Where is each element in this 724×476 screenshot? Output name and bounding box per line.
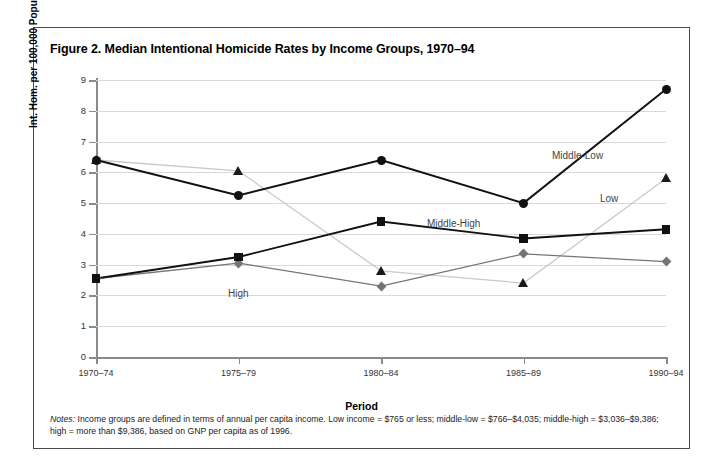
gridline — [96, 142, 666, 143]
data-point-marker — [376, 266, 386, 275]
y-tick — [89, 265, 96, 267]
y-tick-label: 9 — [64, 74, 86, 85]
y-tick-label: 5 — [64, 197, 86, 208]
y-tick — [89, 326, 96, 328]
series-line-middle-low — [96, 89, 666, 203]
y-tick — [89, 111, 96, 113]
figure-title: Figure 2. Median Intentional Homicide Ra… — [50, 42, 474, 56]
figure-frame: Figure 2. Median Intentional Homicide Ra… — [33, 27, 690, 449]
x-tick-label: 1975–79 — [204, 368, 274, 378]
x-tick-label: 1970–74 — [61, 368, 131, 378]
figure-notes: Notes: Income groups are defined in term… — [50, 413, 670, 438]
gridline — [96, 295, 666, 296]
series-lines-layer — [34, 28, 691, 450]
data-point-marker — [92, 274, 101, 283]
gridline — [96, 234, 666, 235]
x-tick — [666, 357, 668, 364]
x-tick — [524, 357, 526, 364]
y-axis-label: Int. Hom. per 100,000 Population — [28, 0, 39, 128]
data-point-marker — [92, 156, 101, 165]
data-point-marker — [234, 253, 243, 262]
gridline — [96, 172, 666, 173]
gridline — [96, 111, 666, 112]
figure-page: Figure 2. Median Intentional Homicide Ra… — [0, 0, 724, 476]
y-tick — [89, 234, 96, 236]
data-point-marker — [662, 225, 671, 234]
series-label-middle-high: Middle-High — [427, 218, 480, 229]
y-tick-label: 8 — [64, 105, 86, 116]
x-tick — [381, 357, 383, 364]
data-point-marker — [376, 281, 386, 291]
gridline — [96, 80, 666, 81]
data-point-marker — [519, 249, 529, 259]
data-point-marker — [377, 217, 386, 226]
gridline — [96, 326, 666, 327]
data-point-marker — [519, 234, 528, 243]
y-tick — [89, 203, 96, 205]
x-axis-label: Period — [34, 400, 689, 412]
data-point-marker — [377, 156, 386, 165]
y-tick-label: 3 — [64, 259, 86, 270]
data-point-marker — [233, 166, 243, 175]
notes-body: Income groups are defined in terms of an… — [50, 414, 659, 436]
x-tick-label: 1985–89 — [489, 368, 559, 378]
x-tick — [239, 357, 241, 364]
data-point-marker — [518, 278, 528, 287]
y-tick — [89, 172, 96, 174]
data-point-marker — [519, 199, 528, 208]
x-tick-label: 1980–84 — [346, 368, 416, 378]
y-tick — [89, 80, 96, 82]
series-label-high: High — [228, 288, 249, 299]
x-tick-label: 1990–94 — [631, 368, 701, 378]
y-tick — [89, 142, 96, 144]
y-axis-line — [96, 78, 98, 359]
y-tick-label: 0 — [64, 351, 86, 362]
y-tick-label: 6 — [64, 166, 86, 177]
series-label-middle-low: Middle-Low — [552, 150, 603, 161]
data-point-marker — [662, 85, 671, 94]
y-tick-label: 4 — [64, 228, 86, 239]
data-point-marker — [661, 173, 671, 182]
y-tick-label: 2 — [64, 289, 86, 300]
data-point-marker — [234, 191, 243, 200]
y-tick — [89, 357, 96, 359]
y-tick-label: 7 — [64, 136, 86, 147]
gridline — [96, 203, 666, 204]
y-tick — [89, 295, 96, 297]
notes-lead: Notes: — [50, 414, 75, 424]
series-label-low: Low — [600, 193, 618, 204]
y-tick-label: 1 — [64, 320, 86, 331]
x-tick — [96, 357, 98, 364]
